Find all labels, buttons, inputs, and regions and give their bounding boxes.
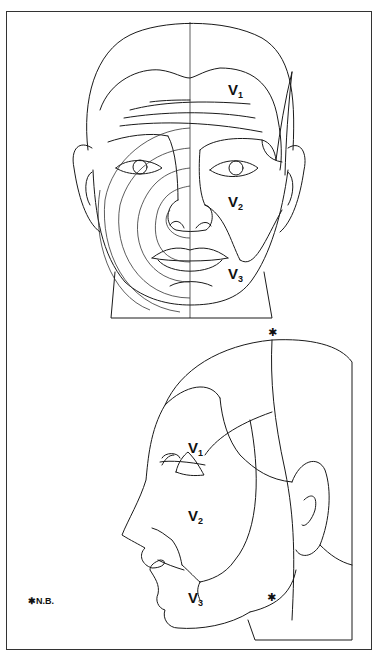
frontal-head bbox=[73, 22, 305, 318]
asterisk-icon: ✱ bbox=[28, 596, 36, 606]
lateral-head bbox=[122, 340, 352, 640]
lateral-label-v2: V2 bbox=[188, 508, 203, 526]
nb-legend-text: N.B. bbox=[36, 596, 54, 606]
frontal-label-v3: V3 bbox=[228, 266, 243, 284]
lateral-label-v3: V3 bbox=[188, 590, 203, 608]
trigeminal-diagram bbox=[0, 0, 379, 659]
lateral-label-v1: V1 bbox=[188, 440, 203, 458]
nb-legend: ✱N.B. bbox=[28, 596, 54, 606]
frontal-label-v2: V2 bbox=[228, 194, 243, 212]
angle-of-jaw-asterisk-marker: ✱ bbox=[267, 592, 276, 603]
vertex-asterisk-marker: ✱ bbox=[268, 327, 277, 338]
frontal-label-v1: V1 bbox=[228, 82, 243, 100]
